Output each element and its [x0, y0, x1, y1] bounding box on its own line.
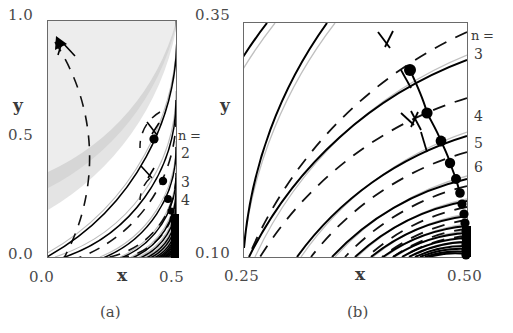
panel-b-xtick-right: 0.50	[447, 267, 482, 285]
panel-b-n-label-3: 3	[474, 46, 483, 62]
panel-a-xtick-1: 0.0	[29, 268, 54, 286]
panel-b: 0.35 0.10 y 0.25 0.50 x n = 3 4 5 6 (b)	[215, 0, 513, 333]
panel-b-n-label-6: 6	[474, 159, 483, 175]
panel-a-n-label-4: 4	[181, 192, 190, 208]
figure-root: 1.0 0.5 0.0 y 0.0 0.5 x n = 2 3 4 (a)	[0, 0, 513, 333]
panel-a-caption: (a)	[100, 303, 121, 321]
panel-b-n-label-4: 4	[474, 108, 483, 124]
panel-b-x-axis-label: x	[355, 264, 365, 284]
panel-a: 1.0 0.5 0.0 y 0.0 0.5 x n = 2 3 4 (a)	[0, 0, 215, 333]
panel-a-ytick-3: 0.0	[8, 245, 33, 263]
panel-a-n-header: n =	[178, 128, 201, 143]
panel-a-xtick-2: 0.5	[159, 268, 184, 286]
panel-b-y-axis-label: y	[220, 95, 230, 115]
panel-a-y-axis-label: y	[13, 95, 23, 115]
panel-a-x-axis-label: x	[117, 265, 127, 285]
panel-a-n-label-3: 3	[181, 174, 190, 190]
panel-a-ytick-2: 0.5	[8, 126, 33, 144]
panel-b-ytick-top: 0.35	[195, 6, 230, 24]
panel-b-xtick-left: 0.25	[224, 267, 259, 285]
panel-a-ytick-1: 1.0	[8, 6, 33, 24]
panel-a-n-label-2: 2	[181, 145, 190, 161]
panel-b-n-header: n =	[471, 28, 494, 43]
panel-b-caption: (b)	[347, 303, 368, 321]
panel-b-n-label-5: 5	[474, 135, 483, 151]
panel-b-ytick-bottom: 0.10	[195, 244, 230, 262]
